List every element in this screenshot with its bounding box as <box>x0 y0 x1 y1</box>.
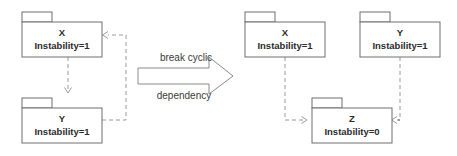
package-left-x-tab <box>22 12 52 22</box>
transform-arrow-caption-line-1: break cyclic <box>160 52 212 63</box>
package-right-x[interactable]: X Instability=1 <box>245 12 325 57</box>
right-diagram-group: X Instability=1 Y Instability=1 Z Instab… <box>245 12 440 143</box>
package-right-y-metric: Instability=1 <box>372 40 428 51</box>
dependency-rightx-to-z <box>285 57 307 124</box>
package-right-x-name: X <box>282 27 289 38</box>
package-right-x-metric: Instability=1 <box>257 40 313 51</box>
dependency-righty-to-z <box>392 57 401 124</box>
package-left-x[interactable]: X Instability=1 <box>22 12 102 57</box>
package-right-z[interactable]: Z Instability=0 <box>312 98 392 143</box>
dependency-y-to-x-arrowhead <box>103 32 109 39</box>
package-left-x-metric: Instability=1 <box>34 40 90 51</box>
left-diagram-group: X Instability=1 Y Instability=1 <box>22 12 126 143</box>
package-dependency-diagram: X Instability=1 Y Instability=1 break cy… <box>0 0 457 156</box>
transform-arrow-group: break cyclic dependency <box>138 52 233 101</box>
package-right-y[interactable]: Y Instability=1 <box>360 12 440 57</box>
package-right-x-tab <box>245 12 275 22</box>
package-right-z-name: Z <box>349 113 355 124</box>
package-left-y-tab <box>22 98 52 108</box>
dependency-x-to-y <box>65 57 72 93</box>
transform-arrow-caption-line-2: dependency <box>157 90 212 101</box>
diagram-canvas: X Instability=1 Y Instability=1 break cy… <box>0 0 457 156</box>
package-left-y-metric: Instability=1 <box>34 126 90 137</box>
dependency-y-to-x <box>102 32 126 121</box>
package-right-y-name: Y <box>397 27 404 38</box>
package-left-y[interactable]: Y Instability=1 <box>22 98 102 143</box>
package-right-z-tab <box>312 98 342 108</box>
package-left-x-name: X <box>59 27 66 38</box>
dependency-y-to-x-line <box>102 35 126 120</box>
package-left-y-name: Y <box>59 113 66 124</box>
package-right-y-tab <box>360 12 390 22</box>
dependency-righty-to-z-line-vertical <box>398 57 400 120</box>
package-right-z-metric: Instability=0 <box>324 126 379 137</box>
dependency-rightx-to-z-line <box>285 57 306 120</box>
